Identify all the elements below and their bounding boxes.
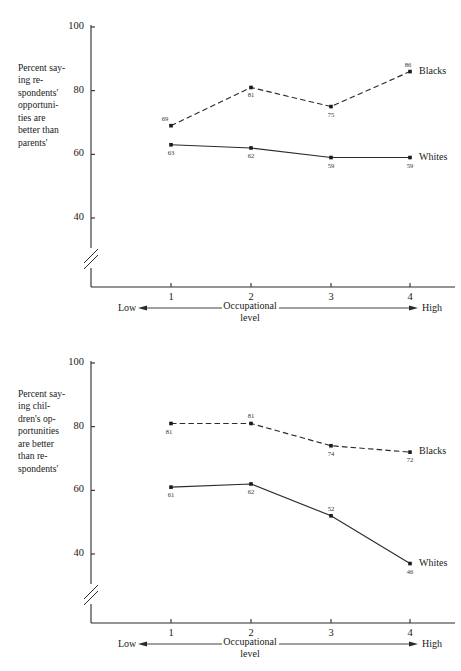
data-point-value-label: 75 — [321, 111, 341, 119]
arrow-right-icon — [409, 305, 418, 310]
y-tick-label: 80 — [58, 84, 84, 96]
data-point-value-label: 59 — [321, 162, 341, 170]
data-point-value-label: 46 — [400, 568, 420, 576]
data-point-value-label: 74 — [321, 450, 341, 458]
series-line-blacks — [171, 72, 410, 126]
data-point-value-label: 52 — [321, 505, 341, 513]
x-tick-label: 4 — [401, 627, 419, 639]
data-point-value-label: 63 — [161, 149, 181, 157]
data-point-marker — [249, 422, 253, 426]
x-tick-label: 1 — [162, 291, 180, 303]
data-point-value-label: 69 — [155, 115, 175, 123]
data-point-value-label: 62 — [241, 152, 261, 160]
x-tick-label: 1 — [162, 627, 180, 639]
x-tick-label: 3 — [322, 291, 340, 303]
data-point-marker — [249, 146, 253, 150]
data-point-marker — [408, 562, 412, 566]
series-label-whites: Whites — [419, 557, 447, 569]
data-point-value-label: 59 — [400, 162, 420, 170]
series-line-whites — [171, 145, 410, 158]
data-point-marker — [249, 86, 253, 90]
data-point-marker — [169, 124, 173, 128]
x-tick-label: 2 — [242, 291, 260, 303]
data-point-value-label: 86 — [398, 61, 418, 69]
y-tick-label: 40 — [58, 211, 84, 223]
y-tick-label: 100 — [58, 356, 84, 368]
y-tick-label: 100 — [58, 20, 84, 32]
data-point-value-label: 62 — [241, 488, 261, 496]
y-tick-label: 80 — [58, 420, 84, 432]
data-point-marker — [408, 70, 412, 74]
series-label-whites: Whites — [419, 151, 447, 163]
data-point-marker — [329, 105, 333, 109]
data-point-value-label: 61 — [161, 491, 181, 499]
x-tick-label: 4 — [401, 291, 419, 303]
y-tick-label: 60 — [58, 483, 84, 495]
data-point-marker — [408, 450, 412, 454]
x-axis-high-label-bottom: High — [422, 638, 442, 650]
data-point-value-label: 81 — [241, 91, 261, 99]
series-line-blacks — [171, 423, 410, 452]
arrow-right-icon — [409, 641, 418, 646]
data-point-marker — [408, 156, 412, 160]
data-point-marker — [329, 514, 333, 518]
x-axis-title-top: Occupational level — [210, 300, 290, 324]
data-point-value-label: 81 — [159, 428, 179, 436]
data-point-value-label: 72 — [400, 456, 420, 464]
x-axis-title-bottom: Occupational level — [210, 636, 290, 660]
plot-area-bottom — [0, 336, 461, 671]
y-tick-label: 40 — [58, 547, 84, 559]
data-point-marker — [249, 482, 253, 486]
series-label-blacks: Blacks — [419, 445, 446, 457]
axis-break-slash — [84, 591, 98, 605]
data-point-marker — [169, 143, 173, 147]
chart-figure-bottom: Percent say- ing chil- dren's op- portun… — [0, 336, 461, 671]
x-tick-label: 3 — [322, 627, 340, 639]
arrow-left-icon — [138, 305, 147, 310]
x-tick-label: 2 — [242, 627, 260, 639]
arrow-left-icon — [138, 641, 147, 646]
data-point-marker — [169, 485, 173, 489]
chart-figure-top: Percent say- ing re- spondents' opportun… — [0, 0, 461, 335]
x-axis-low-label-top: Low — [118, 302, 136, 314]
series-label-blacks: Blacks — [419, 65, 446, 77]
data-point-value-label: 81 — [241, 412, 261, 420]
axis-break-slash — [84, 585, 98, 599]
data-point-marker — [329, 156, 333, 160]
axis-break-slash — [84, 255, 98, 269]
series-line-whites — [171, 484, 410, 564]
data-point-marker — [169, 422, 173, 426]
plot-area-top — [0, 0, 461, 335]
axis-break-slash — [84, 249, 98, 263]
data-point-marker — [329, 444, 333, 448]
x-axis-high-label-top: High — [422, 302, 442, 314]
y-tick-label: 60 — [58, 147, 84, 159]
x-axis-low-label-bottom: Low — [118, 638, 136, 650]
